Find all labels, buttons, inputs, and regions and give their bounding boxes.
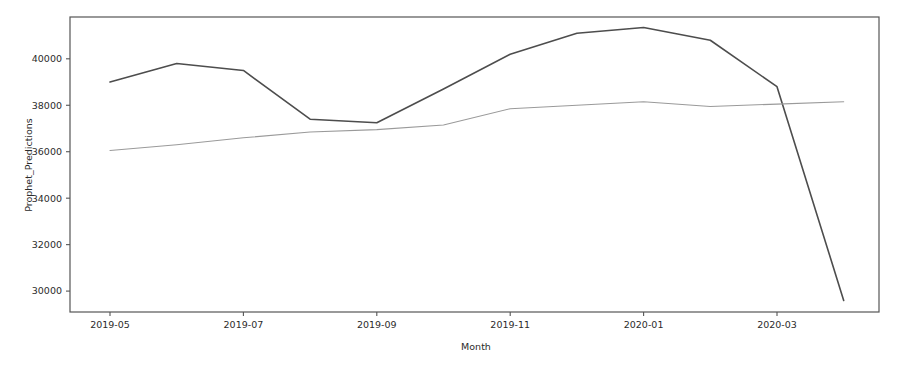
x-tick-label: 2019-09	[357, 319, 397, 330]
x-tick-label: 2019-07	[224, 319, 264, 330]
y-tick-label: 32000	[32, 239, 62, 250]
y-tick-label: 30000	[32, 285, 62, 296]
y-tick-label: 36000	[32, 146, 62, 157]
y-axis-ticks: 300003200034000360003800040000	[32, 53, 70, 296]
y-tick-label: 38000	[32, 100, 62, 111]
y-tick-label: 34000	[32, 193, 62, 204]
prophet-predictions-chart: 300003200034000360003800040000 2019-0520…	[0, 0, 903, 370]
y-axis-title: Prophet_Predictions	[23, 118, 34, 212]
chart-canvas: 300003200034000360003800040000 2019-0520…	[0, 0, 903, 370]
series-line-prophet_forecast	[110, 102, 844, 151]
plot-frame	[70, 17, 879, 312]
series-line-actual	[110, 27, 844, 300]
x-tick-label: 2019-05	[90, 319, 130, 330]
x-axis-title: Month	[461, 341, 491, 352]
x-tick-label: 2020-01	[624, 319, 664, 330]
x-axis-ticks: 2019-052019-072019-092019-112020-012020-…	[90, 312, 797, 330]
x-tick-label: 2020-03	[757, 319, 797, 330]
series-group	[110, 27, 844, 300]
x-tick-label: 2019-11	[490, 319, 530, 330]
y-tick-label: 40000	[32, 53, 62, 64]
